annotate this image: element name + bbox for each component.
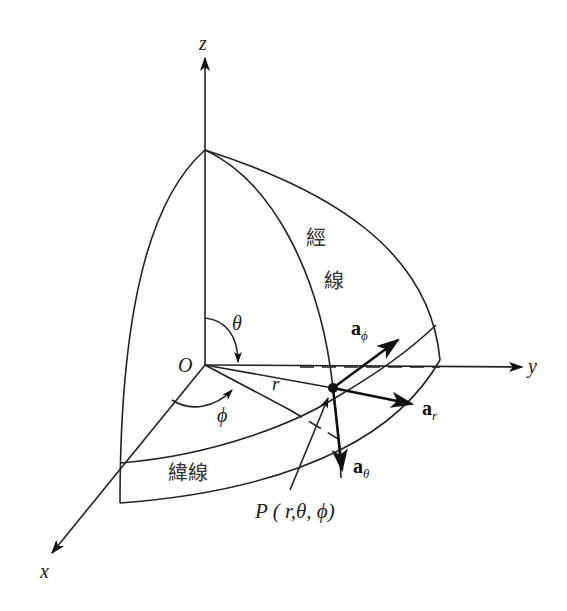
y-label: y — [526, 355, 537, 378]
origin-label: O — [178, 354, 192, 376]
theta-label: θ — [232, 312, 242, 334]
x-axis — [52, 365, 205, 553]
meridian-label-2: 線 — [324, 269, 344, 293]
a-r-label: ar — [422, 397, 438, 423]
meridian-xz — [120, 150, 205, 503]
point-p-label: P ( r,θ, ϕ) — [254, 499, 335, 523]
projection-dashed — [290, 410, 340, 440]
spherical-coordinates-diagram: z y x O θ ϕ r aϕ ar aθ P ( r,θ, ϕ) 經 線 緯… — [0, 0, 567, 611]
a-theta-label: aθ — [353, 455, 370, 481]
meridian-label-1: 經 — [306, 226, 326, 250]
radius-label: r — [272, 373, 280, 394]
z-label: z — [198, 32, 207, 54]
parallel-label: 緯線 — [168, 461, 208, 485]
vector-a-theta — [333, 388, 342, 470]
a-phi-label: aϕ — [351, 317, 368, 343]
phi-label: ϕ — [217, 404, 227, 427]
vector-a-r — [333, 388, 412, 404]
point-p — [328, 383, 338, 393]
x-label: x — [39, 560, 49, 582]
radius-line — [205, 365, 333, 388]
